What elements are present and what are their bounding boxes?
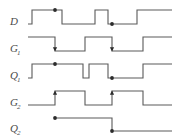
waveform-g2 [28, 91, 172, 105]
signal-label-q2: Q2 [10, 122, 21, 137]
signal-label-subscript: 1 [17, 49, 21, 57]
signal-label-subscript: 1 [17, 76, 21, 84]
signal-labels-layer: DG1Q1G2Q2 [9, 15, 21, 137]
signal-label-g1: G1 [10, 42, 21, 57]
sample-dot-marker [110, 76, 114, 80]
waveform-g1 [28, 37, 172, 51]
signal-label-subscript: 2 [17, 129, 21, 137]
signal-label-base: D [9, 15, 18, 27]
sample-dot-marker [53, 116, 57, 120]
timing-diagram-canvas: DG1Q1G2Q2 [0, 0, 184, 138]
signal-label-subscript: 2 [17, 103, 21, 111]
sample-dot-marker [110, 129, 114, 133]
signal-waveforms-layer [28, 10, 172, 131]
signal-label-q1: Q1 [10, 69, 21, 84]
signal-label-g2: G2 [10, 96, 21, 111]
waveform-q2 [55, 118, 172, 131]
waveform-d [28, 10, 172, 24]
waveform-q1 [28, 64, 172, 78]
sample-dot-marker [53, 62, 57, 66]
sample-dot-marker [110, 22, 114, 26]
signal-label-d: D [9, 15, 18, 27]
timing-diagram-figure: DG1Q1G2Q2 [0, 0, 184, 138]
sample-dot-marker [53, 8, 57, 12]
